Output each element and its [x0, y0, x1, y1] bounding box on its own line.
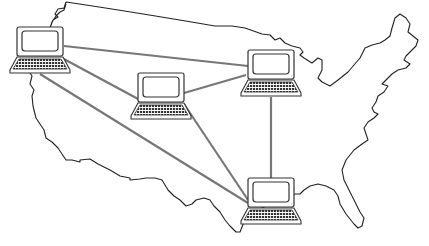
- link-west-lakes: [64, 46, 248, 66]
- link-center-lakes: [184, 75, 246, 93]
- laptop-icon-center: [131, 73, 191, 119]
- network-map-diagram: [0, 0, 429, 246]
- link-center-south: [184, 104, 248, 200]
- laptop-icon-west: [10, 27, 70, 73]
- laptop-icon-south: [241, 178, 301, 224]
- network-links: [40, 46, 271, 203]
- us-map-outline: [24, 2, 418, 232]
- laptop-icon-lakes: [241, 50, 301, 96]
